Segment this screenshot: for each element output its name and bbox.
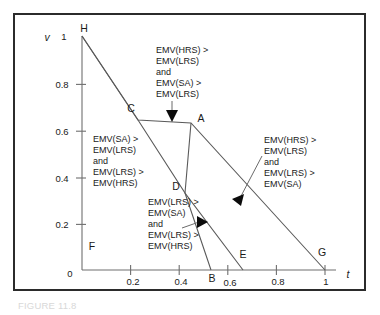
x-tick-label-0.6: 0.6 <box>223 277 236 288</box>
point-label-a: A <box>197 112 204 124</box>
annotation-right-line5: EMV(SA) <box>264 179 302 189</box>
annotation-top-line1: EMV(HRS) > <box>156 45 208 55</box>
annotation-left-line3: and <box>93 156 108 166</box>
annotation-bottom-arrowhead <box>197 216 208 228</box>
x-tick-label-0.8: 0.8 <box>271 276 284 287</box>
annotation-bottom-line3: and <box>148 219 163 229</box>
annotation-bottom-line4: EMV(LRS) > <box>148 230 199 240</box>
annotation-left: EMV(SA) > EMV(LRS) and EMV(LRS) > EMV(HR… <box>93 134 144 188</box>
annotation-top-line5: EMV(LRS) <box>156 89 199 99</box>
x-axis-name: t <box>347 268 351 280</box>
annotation-right-arrowhead <box>232 194 244 206</box>
y-tick-label-0.2: 0.2 <box>55 219 68 230</box>
annotation-top: EMV(HRS) > EMV(LRS) and EMV(SA) > EMV(LR… <box>156 45 208 122</box>
annotation-top-arrowhead <box>166 110 178 122</box>
point-label-h: H <box>80 22 88 34</box>
y-tick-label-0.6: 0.6 <box>55 126 68 137</box>
annotation-left-line4: EMV(LRS) > <box>93 167 144 177</box>
x-tick-label-1: 1 <box>323 276 328 287</box>
annotation-right-line4: EMV(LRS) > <box>264 168 315 178</box>
point-label-f: F <box>89 240 95 252</box>
figure-caption: FIGURE 11.8 <box>18 300 362 315</box>
annotation-top-line3: and <box>156 67 171 77</box>
annotation-bottom-line2: EMV(SA) <box>148 208 186 218</box>
annotation-bottom-line1: EMV(LRS) > <box>148 197 199 207</box>
point-label-d: D <box>172 180 180 192</box>
y-tick-label-0.4: 0.4 <box>55 173 68 184</box>
y-tick-label-0: 0 <box>67 268 72 279</box>
x-tick-label-0.2: 0.2 <box>126 276 139 287</box>
point-label-b: B <box>208 272 215 284</box>
point-label-e: E <box>239 248 246 260</box>
annotation-bottom: EMV(LRS) > EMV(SA) and EMV(LRS) > EMV(HR… <box>148 197 208 251</box>
annotation-right-line2: EMV(LRS) <box>264 146 307 156</box>
annotation-bottom-line5: EMV(HRS) <box>148 241 193 251</box>
annotation-left-line2: EMV(LRS) <box>93 145 136 155</box>
annotation-right-leader <box>240 156 262 198</box>
annotation-top-line4: EMV(SA) > <box>156 78 201 88</box>
annotation-right: EMV(HRS) > EMV(LRS) and EMV(LRS) > EMV(S… <box>232 135 316 206</box>
annotation-right-line1: EMV(HRS) > <box>264 135 316 145</box>
annotation-right-line3: and <box>264 157 279 167</box>
annotation-left-line5: EMV(HRS) <box>93 178 138 188</box>
point-label-c: C <box>127 102 135 114</box>
x-tick-label-0.4: 0.4 <box>174 276 187 287</box>
y-axis-name: v <box>44 31 50 43</box>
region-diagram: 1 0.8 0.6 0.4 0.2 0 0.2 0.4 0.6 0.8 1 v … <box>0 0 380 315</box>
annotation-left-line1: EMV(SA) > <box>93 134 138 144</box>
y-tick-label-1: 1 <box>61 31 66 42</box>
y-tick-label-0.8: 0.8 <box>55 79 68 90</box>
figure-root: 1 0.8 0.6 0.4 0.2 0 0.2 0.4 0.6 0.8 1 v … <box>0 0 380 315</box>
annotation-top-line2: EMV(LRS) <box>156 56 199 66</box>
point-label-g: G <box>318 246 326 258</box>
